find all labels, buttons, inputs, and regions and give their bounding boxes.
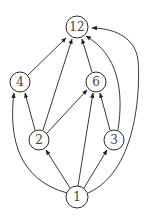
node-6: 6 (86, 72, 106, 92)
edges (13, 28, 139, 193)
node-4: 4 (10, 72, 30, 92)
node-label: 1 (73, 190, 81, 204)
node-label: 4 (16, 75, 24, 89)
edge-6-to-12 (82, 39, 92, 72)
node-label: 2 (35, 133, 43, 147)
edge-1-to-3 (84, 150, 107, 188)
edge-3-to-6 (100, 93, 110, 130)
node-3: 3 (104, 130, 124, 150)
divisor-graph: 12 4 6 2 3 1 (0, 0, 144, 221)
node-2: 2 (29, 130, 49, 150)
node-1: 1 (66, 186, 88, 208)
edge-2-to-6 (47, 90, 87, 133)
edge-2-to-4 (25, 93, 35, 130)
node-12: 12 (66, 16, 88, 38)
edge-4-to-12 (28, 38, 66, 75)
node-label: 12 (69, 20, 84, 34)
edge-2-to-12 (43, 39, 72, 130)
edge-1-to-2 (46, 150, 70, 188)
node-label: 6 (92, 75, 100, 89)
edge-1-to-6 (78, 93, 93, 186)
node-label: 3 (110, 133, 118, 147)
